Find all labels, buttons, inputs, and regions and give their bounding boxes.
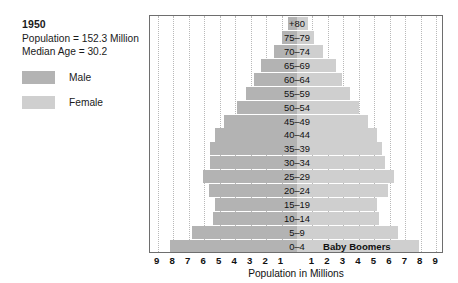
legend-swatch-male [22, 71, 55, 84]
x-tick-label: 7 [185, 255, 190, 266]
x-axis-title: Population in Millions [149, 268, 443, 279]
x-tick-label: 1 [278, 255, 283, 266]
x-tick-label: 9 [433, 255, 438, 266]
x-tick-label: 8 [170, 255, 175, 266]
x-tick-label: 5 [371, 255, 376, 266]
age-group-label: 0–4 [289, 240, 305, 253]
x-tick-label: 6 [200, 255, 205, 266]
age-group-label: 15–19 [284, 198, 310, 211]
age-group-row: 5–9 [150, 226, 442, 239]
x-tick-label: 1 [309, 255, 314, 266]
bar-male [170, 240, 297, 253]
x-tick-label: 2 [324, 255, 329, 266]
age-group-row: 10–14 [150, 212, 442, 225]
age-group-row: 15–19 [150, 198, 442, 211]
age-group-row: 30–34 [150, 156, 442, 169]
bar-female [297, 170, 394, 183]
legend-label-female: Female [69, 97, 103, 108]
x-tick-label: 4 [231, 255, 236, 266]
x-tick-label: 7 [402, 255, 407, 266]
age-group-label: 35–39 [284, 142, 310, 155]
baby-boomers-annotation: Baby Boomers [323, 240, 391, 253]
legend-label-male: Male [69, 72, 91, 83]
x-axis-ticks: 987654321123456789 [149, 255, 443, 269]
age-group-row: 35–39 [150, 142, 442, 155]
age-group-row: 50–54 [150, 101, 442, 114]
age-group-row: 20–24 [150, 184, 442, 197]
bar-female [297, 184, 388, 197]
age-group-row: 70–74 [150, 45, 442, 58]
age-group-label: 30–34 [284, 156, 310, 169]
age-group-label: 10–14 [284, 212, 310, 225]
age-group-row: 55–59 [150, 87, 442, 100]
age-group-label: 70–74 [284, 45, 310, 58]
age-group-label: 55–59 [284, 87, 310, 100]
bar-male [192, 226, 297, 239]
bar-female [297, 226, 398, 239]
x-tick-label: 5 [216, 255, 221, 266]
x-tick-label: 9 [154, 255, 159, 266]
age-group-label: 50–54 [284, 101, 310, 114]
x-tick-label: 2 [262, 255, 267, 266]
x-tick-label: 8 [417, 255, 422, 266]
age-group-label: 75–79 [284, 31, 310, 44]
age-group-row: 65–69 [150, 59, 442, 72]
x-tick-label: 3 [247, 255, 252, 266]
age-group-row: 25–29 [150, 170, 442, 183]
plot-area: +8075–7970–7465–6960–6455–5950–5445–4940… [149, 15, 443, 253]
bar-male [203, 170, 297, 183]
age-group-label: 5–9 [289, 226, 305, 239]
bar-female [297, 156, 385, 169]
age-group-row: +80 [150, 17, 442, 30]
age-group-label: 25–29 [284, 170, 310, 183]
x-tick-label: 4 [355, 255, 360, 266]
age-group-row: 60–64 [150, 73, 442, 86]
age-group-label: +80 [289, 17, 305, 30]
age-group-row: 45–49 [150, 115, 442, 128]
x-tick-label: 6 [386, 255, 391, 266]
age-group-label: 60–64 [284, 73, 310, 86]
age-group-label: 45–49 [284, 115, 310, 128]
age-group-label: 65–69 [284, 59, 310, 72]
legend-swatch-female [22, 96, 55, 109]
population-pyramid-figure: 1950 Population = 152.3 Million Median A… [0, 0, 458, 283]
bar-rows: +8075–7970–7465–6960–6455–5950–5445–4940… [150, 16, 442, 252]
age-group-label: 40–44 [284, 128, 310, 141]
age-group-row: 75–79 [150, 31, 442, 44]
age-group-label: 20–24 [284, 184, 310, 197]
age-group-row: 0–4Baby Boomers [150, 240, 442, 253]
x-tick-label: 3 [340, 255, 345, 266]
age-group-row: 40–44 [150, 128, 442, 141]
